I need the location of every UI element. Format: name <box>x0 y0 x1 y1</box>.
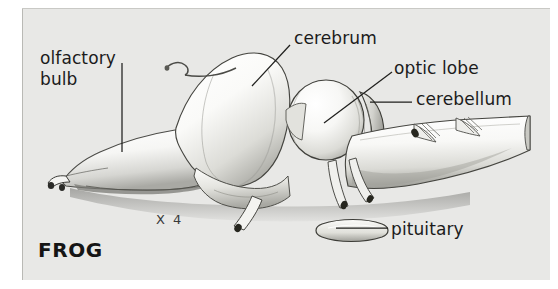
caption-species: FROG <box>38 238 103 262</box>
illustration-plate: olfactory bulb cerebrum optic lobe cereb… <box>0 0 558 289</box>
label-olfactory-bulb-line2: bulb <box>40 69 116 90</box>
label-pituitary: pituitary <box>391 219 464 239</box>
label-olfactory-bulb: olfactory bulb <box>40 48 116 90</box>
magnification-marker: X 4 <box>156 212 183 227</box>
label-cerebellum: cerebellum <box>416 89 512 109</box>
pituitary-shape <box>316 220 388 242</box>
lobe-connector <box>286 103 306 140</box>
label-cerebrum: cerebrum <box>294 28 377 48</box>
label-optic-lobe: optic lobe <box>394 58 479 78</box>
label-olfactory-bulb-line1: olfactory <box>40 48 116 69</box>
